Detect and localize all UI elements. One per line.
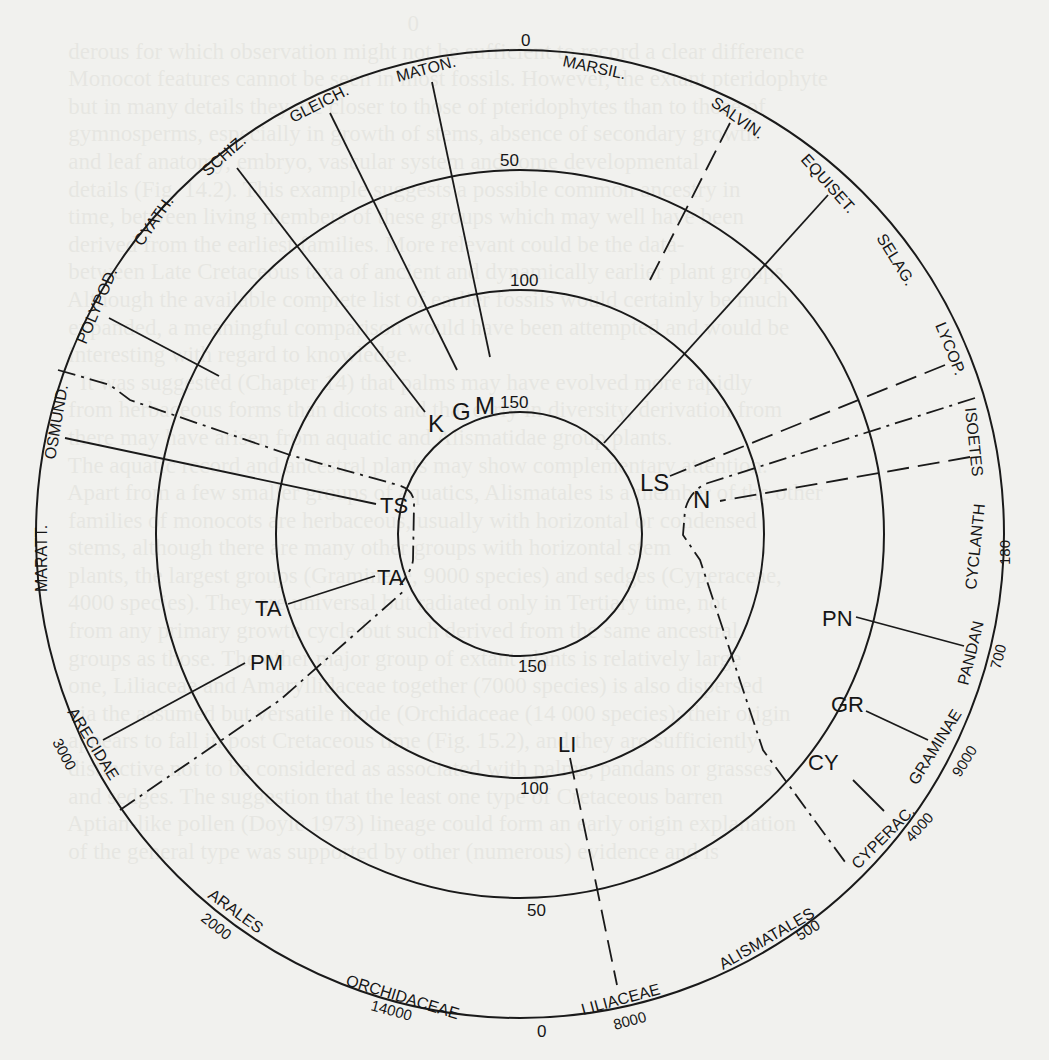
ring-value-label: 50 bbox=[500, 151, 519, 170]
node-label: TS bbox=[380, 493, 408, 518]
node-label: LI bbox=[558, 732, 576, 757]
node-label: LS bbox=[640, 469, 669, 496]
node-label: M bbox=[475, 392, 495, 419]
ring-value-label: 100 bbox=[510, 271, 538, 290]
node-label: PN bbox=[822, 606, 853, 631]
polar-phylogeny-diagram: 050100150150100500 MATON.MARSIL.GLEICH.S… bbox=[0, 0, 1049, 1060]
node-label: N bbox=[693, 486, 710, 513]
ring-value-label: 0 bbox=[521, 31, 530, 50]
node-label: GR bbox=[831, 692, 864, 717]
node-label: G bbox=[452, 398, 471, 425]
paper-wash bbox=[0, 0, 1049, 1060]
ring-value-label: 50 bbox=[527, 901, 546, 920]
species-count-label: 180 bbox=[996, 540, 1013, 565]
ring-value-label: 0 bbox=[537, 1022, 546, 1041]
node-label: TA bbox=[377, 565, 404, 590]
taxon-label: MARATT. bbox=[33, 525, 50, 592]
node-label: TA bbox=[255, 596, 282, 621]
ring-value-label: 150 bbox=[518, 657, 546, 676]
node-label: PM bbox=[250, 650, 283, 675]
ring-value-label: 150 bbox=[500, 393, 528, 412]
ring-value-label: 100 bbox=[520, 779, 548, 798]
figure-page: 0 derous for which observation might not… bbox=[0, 0, 1049, 1060]
node-label: CY bbox=[808, 750, 839, 775]
node-label: K bbox=[428, 410, 444, 437]
